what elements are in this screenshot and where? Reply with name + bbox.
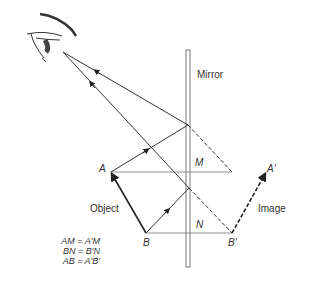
point-A-prime-label: A' — [267, 164, 276, 174]
ray-A-mirror — [111, 125, 188, 172]
point-B-label: B — [143, 238, 150, 248]
point-A-label: A — [99, 164, 106, 174]
arrow-icon — [96, 71, 100, 74]
point-N-label: N — [196, 220, 203, 230]
point-M-label: M — [195, 158, 203, 168]
equation-bn: BN = B'N — [20, 246, 100, 256]
ray-eye-upper — [63, 52, 188, 125]
arrow-icon — [143, 150, 147, 153]
ray-eye-lower — [63, 52, 189, 188]
arrow-icon — [165, 210, 168, 213]
mirror-label: Mirror — [197, 70, 223, 80]
image-label: Image — [258, 204, 286, 214]
mirror — [186, 50, 190, 267]
point-B-prime-label: B' — [228, 238, 237, 248]
equation-am: AM = A'M — [20, 236, 100, 246]
equations: AM = A'M BN = B'N AB = A'B' — [20, 236, 100, 266]
equation-ab: AB = A'B' — [20, 256, 100, 266]
object-label: Object — [90, 204, 119, 214]
